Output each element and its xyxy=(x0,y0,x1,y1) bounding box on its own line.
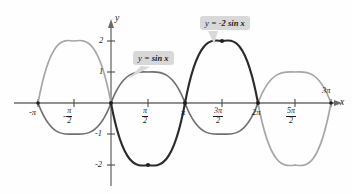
point-2pi-intersect xyxy=(256,101,260,105)
curve-sin-right-arch xyxy=(258,72,331,103)
point-max-2 xyxy=(220,39,224,43)
fraction: π 2 xyxy=(142,107,148,125)
y-tick-label-2: 2 xyxy=(99,36,103,45)
graph-canvas xyxy=(0,0,352,194)
point-minus-pi-intersect xyxy=(36,101,40,105)
x-tick-label-5pi-over-2: 5π 2 xyxy=(286,107,296,125)
x-tick-label-3pi: 3π xyxy=(322,86,331,95)
x-tick-label-2pi: 2π xyxy=(252,108,261,117)
callout-neg2sin-body: sin x xyxy=(226,18,245,28)
point-3pi-intersect xyxy=(329,101,333,105)
axis-group xyxy=(14,19,342,186)
y-tick-label-1: 1 xyxy=(99,67,103,76)
point-origin-intersect xyxy=(109,101,113,105)
x-tick-label-minus-pi-over-2: - π 2 xyxy=(63,107,72,125)
callout-neg2-sin-x: y = -2 sin x xyxy=(200,16,250,30)
y-axis-label: y xyxy=(115,14,119,24)
fraction: π 2 xyxy=(66,107,72,125)
trig-graph-figure: x y -π - π 2 π 2 π 3π 2 2π 5π 2 3π xyxy=(0,0,352,194)
callout-sin-body: sin x xyxy=(152,53,169,63)
x-tick-label-3pi-over-2: 3π 2 xyxy=(213,107,223,125)
point-pi-intersect xyxy=(183,101,187,105)
x-tick-label-minus-pi: -π xyxy=(29,108,36,117)
y-tick-label-neg2: -2 xyxy=(95,160,102,169)
fraction: 3π 2 xyxy=(213,107,223,125)
fraction: 5π 2 xyxy=(286,107,296,125)
callout-neg2sin-prefix: y = xyxy=(205,18,219,28)
y-axis-arrow xyxy=(108,19,114,28)
x-tick-label-pi: π xyxy=(181,108,185,117)
x-axis-label: x xyxy=(340,98,344,108)
x-tick-label-pi-over-2: π 2 xyxy=(142,107,148,125)
callout-neg2sin-coefficient: -2 xyxy=(219,18,226,28)
point-min-neg2 xyxy=(146,163,150,167)
y-tick-label-neg1: -1 xyxy=(95,129,102,138)
callout-sin-prefix: y = xyxy=(138,53,152,63)
callout-sin-x: y = sin x xyxy=(133,51,174,65)
